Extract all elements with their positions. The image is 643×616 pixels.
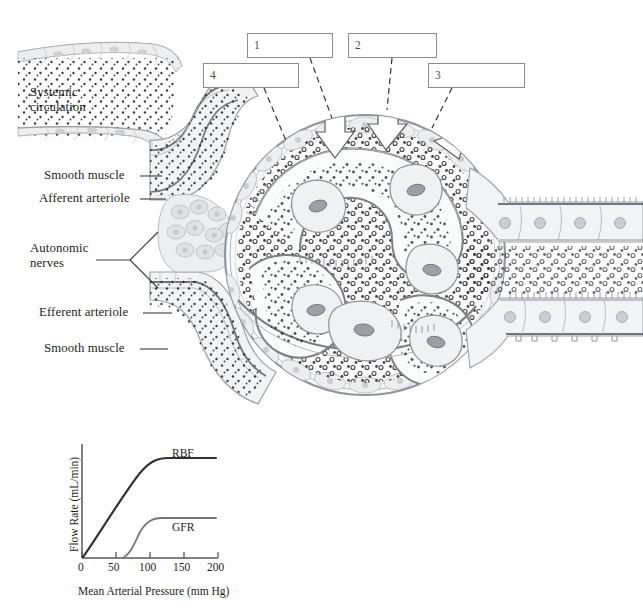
gfr-curve-label: GFR (172, 521, 194, 533)
rbf-curve-label: RBF (172, 447, 194, 459)
rbf-curve (83, 458, 216, 557)
x-tick-label-150: 150 (173, 561, 190, 573)
chart-y-axis-label: Flow Rate (mL/min) (68, 457, 80, 552)
chart-axes (82, 444, 218, 558)
x-axis-ticks (82, 552, 218, 558)
x-tick-label-200: 200 (207, 561, 224, 573)
x-tick-label-0: 0 (78, 561, 84, 573)
autoregulation-chart (0, 0, 643, 616)
x-tick-label-50: 50 (108, 561, 120, 573)
chart-x-axis-label: Mean Arterial Pressure (mm Hg) (78, 585, 229, 597)
x-tick-label-100: 100 (139, 561, 156, 573)
figure-canvas: 1 2 3 4 Systemic circulation Smooth musc… (0, 0, 643, 616)
gfr-curve (124, 518, 216, 557)
